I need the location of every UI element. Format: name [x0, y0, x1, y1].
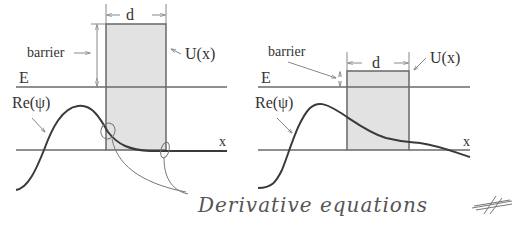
right-wavefunction-label: Re(ψ) — [255, 94, 293, 112]
left-potential-label: U(x) — [185, 45, 215, 63]
right-barrier — [347, 71, 409, 150]
left-wavefunction-label: Re(ψ) — [12, 94, 50, 112]
scribble-crossout — [472, 196, 512, 214]
left-axis-label: x — [219, 134, 226, 149]
right-axis-label: x — [463, 134, 470, 149]
right-panel: d barrier U(x) E Re(ψ) x — [255, 44, 470, 188]
right-barrier-label: barrier — [268, 44, 306, 59]
handwritten-text: Derivative equations — [197, 193, 428, 217]
left-panel: d barrier U(x) E Re(ψ) x — [12, 4, 227, 194]
left-barrier-label: barrier — [27, 45, 65, 60]
handwritten-annotation: Derivative equations — [197, 193, 512, 217]
right-d-label: d — [372, 54, 380, 71]
tunneling-diagram: d barrier U(x) E Re(ψ) x — [0, 0, 526, 229]
left-energy-label: E — [19, 69, 29, 86]
left-d-label: d — [126, 6, 134, 23]
right-potential-label: U(x) — [430, 49, 460, 67]
right-energy-label: E — [261, 69, 271, 86]
